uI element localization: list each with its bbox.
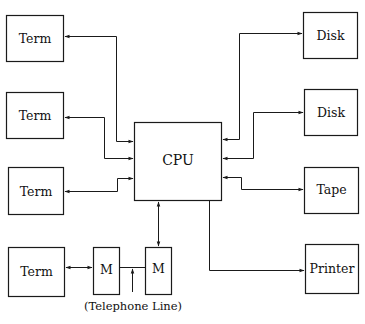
modem-1-label: M — [100, 262, 113, 277]
tape-box: Tape — [305, 168, 359, 214]
cpu-box: CPU — [135, 123, 222, 201]
terminal-2-box: Term — [7, 93, 64, 139]
terminal-2-label: Term — [19, 108, 52, 123]
terminal-4-label: Term — [20, 264, 53, 279]
telephone-line-label: (Telephone Line) — [84, 299, 182, 313]
terminal-1-box: Term — [7, 16, 64, 62]
terminal-3-label: Term — [20, 184, 53, 199]
disk-2-label: Disk — [317, 105, 345, 120]
term2-cpu-connector — [65, 118, 133, 159]
cpu-tape-connector — [223, 178, 303, 190]
modem-1-box: M — [94, 248, 120, 295]
disk-2-box: Disk — [305, 90, 358, 136]
tape-label: Tape — [316, 182, 346, 197]
cpu-disk1-connector — [223, 34, 302, 140]
cpu-disk2-connector — [223, 113, 303, 159]
term3-cpu-connector — [65, 179, 133, 192]
cpu-label: CPU — [162, 152, 194, 168]
printer-box: Printer — [306, 245, 359, 294]
modem-2-label: M — [152, 261, 165, 276]
modem-2-box: M — [146, 248, 172, 295]
terminal-1-label: Term — [19, 31, 52, 46]
disk-1-box: Disk — [304, 13, 358, 59]
cpu-printer-connector — [210, 201, 305, 271]
printer-label: Printer — [310, 261, 355, 276]
disk-1-label: Disk — [316, 28, 344, 43]
computer-system-diagram: Term Term Term Term M M CPU Disk Disk Ta… — [0, 0, 365, 324]
terminal-4-box: Term — [9, 248, 65, 297]
terminal-3-box: Term — [9, 168, 64, 215]
term1-cpu-connector — [65, 37, 133, 142]
